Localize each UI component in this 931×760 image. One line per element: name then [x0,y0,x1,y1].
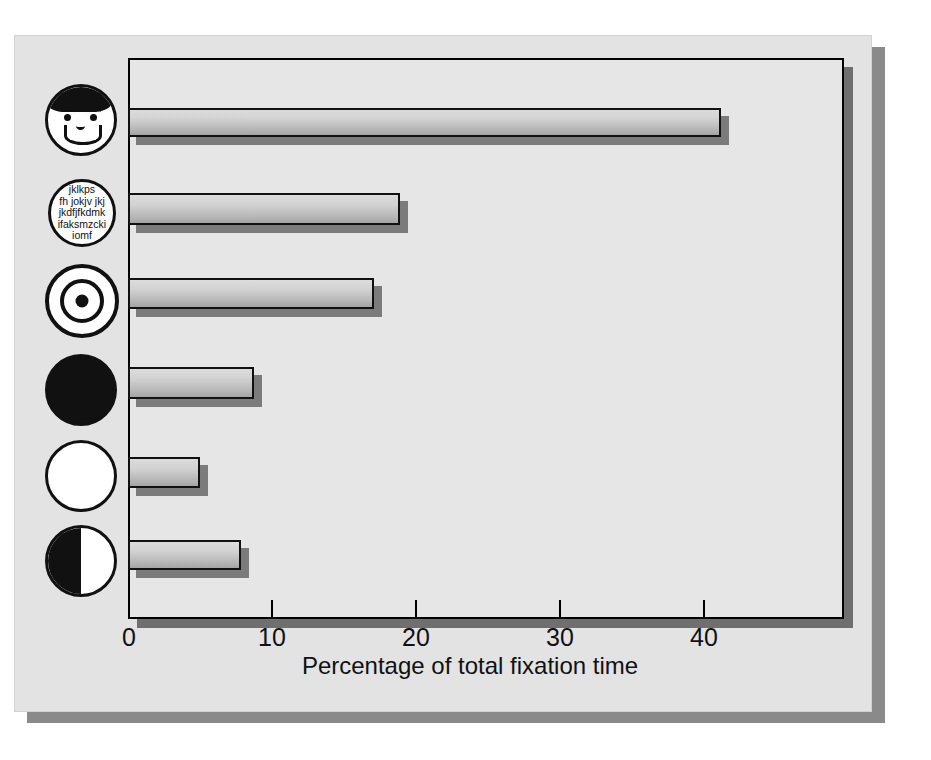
bullseye-center-dot [76,295,89,308]
smiling-face-icon [45,84,117,156]
face-mouth [64,125,102,145]
x-tick-40 [703,600,705,619]
nonsense-line-5: iomf [58,230,106,242]
x-axis-title: Percentage of total fixation time [90,652,850,680]
x-tick-label-10: 10 [237,623,307,652]
face-right-eye [90,114,97,121]
face-hair [46,84,112,112]
x-tick-30 [559,600,561,619]
solid-black-disc-icon [45,354,117,426]
x-tick-label-20: 20 [381,623,451,652]
x-tick-10 [271,600,273,619]
nonsense-text-lines: jklkps fh jokjv jkj jkdfjfkdmk ifaksmzck… [58,184,106,242]
figure-root: jklkps fh jokjv jkj jkdfjfkdmk ifaksmzck… [0,0,931,760]
x-tick-label-30: 30 [525,623,595,652]
x-tick-20 [415,600,417,619]
x-tick-label-0: 0 [94,623,164,652]
nonsense-text-circle-icon: jklkps fh jokjv jkj jkdfjfkdmk ifaksmzck… [48,179,116,247]
x-tick-label-40: 40 [669,623,739,652]
bullseye-target-icon [45,264,119,338]
solid-white-disc-icon [45,440,117,512]
half-black-half-white-disc-icon [45,525,117,597]
face-left-eye [64,114,71,121]
plot-area [128,58,844,619]
half-disc-black-side [48,528,81,594]
